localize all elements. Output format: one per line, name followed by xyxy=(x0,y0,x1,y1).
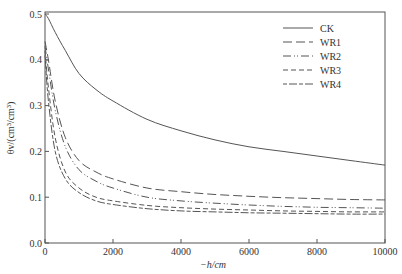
chart: 0200040006000800010000 0.00.10.20.30.40.… xyxy=(0,0,402,274)
y-tick-label: 0.5 xyxy=(30,9,43,20)
legend-label-ck: CK xyxy=(320,23,335,34)
y-axis-label: θv/(cm³/cm³) xyxy=(5,102,17,154)
x-tick-label: 2000 xyxy=(103,246,123,257)
y-tick-label: 0.1 xyxy=(30,192,43,203)
x-axis: 0200040006000800010000 xyxy=(43,239,398,257)
x-tick-label: 4000 xyxy=(171,246,191,257)
legend-label-wr2: WR2 xyxy=(320,51,341,62)
y-tick-label: 0.3 xyxy=(30,100,43,111)
legend: CKWR1WR2WR3WR4 xyxy=(283,23,341,90)
x-axis-label: −h/cm xyxy=(200,259,226,270)
legend-label-wr3: WR3 xyxy=(320,65,341,76)
x-tick-label: 10000 xyxy=(373,246,398,257)
legend-label-wr1: WR1 xyxy=(320,37,341,48)
y-tick-label: 0.2 xyxy=(30,146,43,157)
x-tick-label: 8000 xyxy=(307,246,327,257)
x-tick-label: 0 xyxy=(43,246,48,257)
y-tick-label: 0.4 xyxy=(30,54,43,65)
x-tick-label: 6000 xyxy=(239,246,259,257)
legend-label-wr4: WR4 xyxy=(320,79,341,90)
y-tick-label: 0.0 xyxy=(30,238,43,249)
